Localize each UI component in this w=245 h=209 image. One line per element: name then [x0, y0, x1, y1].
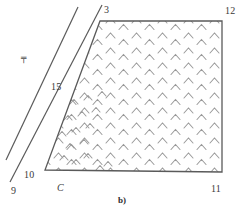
figure-drawing: [0, 0, 245, 209]
line-label-9: 9: [11, 186, 16, 196]
vertex-label-c: C: [57, 183, 64, 193]
figure-container: ╤ 3 12 15 10 9 C 11 b): [0, 0, 245, 209]
figure-caption: b): [118, 195, 126, 205]
vertex-label-3: 3: [104, 5, 109, 15]
vertex-label-11: 11: [211, 184, 221, 194]
line-label-15: 15: [51, 82, 61, 92]
vertex-label-12: 12: [225, 6, 235, 16]
line-label-10: 10: [24, 170, 34, 180]
annotation-glyph: ╤: [21, 54, 26, 63]
hatch-fill: [40, 15, 230, 180]
